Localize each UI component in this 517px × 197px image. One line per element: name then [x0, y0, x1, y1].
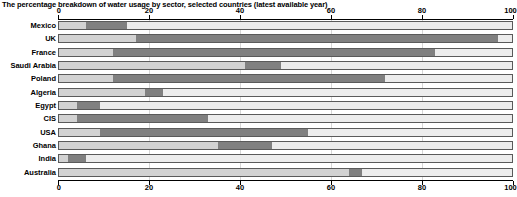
bar-segment [59, 169, 349, 176]
bar-row [58, 87, 513, 100]
stacked-bar[interactable] [58, 61, 513, 70]
bar-segment [113, 49, 435, 56]
category-label: India [2, 154, 56, 163]
bar-segment [100, 102, 512, 109]
bar-row [58, 73, 513, 86]
bar-segment [100, 129, 308, 136]
bar-row [58, 140, 513, 153]
bar-segment [59, 49, 113, 56]
x-axis-tick-label: 80 [418, 6, 426, 15]
bar-segment [435, 49, 512, 56]
stacked-bar[interactable] [58, 21, 513, 30]
category-label: Egypt [2, 101, 56, 110]
bar-segment [145, 89, 163, 96]
bar-segment [308, 129, 512, 136]
x-axis-tick-label: 20 [145, 6, 153, 15]
x-axis-top: 020406080100 [58, 9, 513, 20]
category-label: USA [2, 128, 56, 137]
x-axis-tick-label: 0 [57, 6, 61, 15]
bar-segment [77, 115, 208, 122]
bar-segment [208, 115, 512, 122]
x-axis-tick-label: 20 [145, 183, 153, 192]
bar-row [58, 127, 513, 140]
stacked-bar[interactable] [58, 74, 513, 83]
category-label: CIS [2, 114, 56, 123]
stacked-bar[interactable] [58, 154, 513, 163]
category-axis: MexicoUKFranceSaudi ArabiaPolandAlgeriaE… [0, 20, 56, 180]
chart-title: The percentage breakdown of water usage … [2, 0, 327, 9]
stacked-bar[interactable] [58, 168, 513, 177]
bar-segment [127, 22, 512, 29]
bar-segment [281, 62, 512, 69]
x-axis-bottom: 020406080100 [58, 180, 513, 191]
bar-segment [498, 35, 512, 42]
x-axis-tick-label: 100 [504, 6, 517, 15]
bar-segment [59, 75, 113, 82]
bar-segment [59, 62, 245, 69]
category-label: Australia [2, 168, 56, 177]
bar-segment [59, 129, 100, 136]
category-label: France [2, 48, 56, 57]
bar-segment [59, 115, 77, 122]
bar-segment [59, 35, 136, 42]
x-axis-tick-label: 40 [236, 6, 244, 15]
stacked-bar[interactable] [58, 48, 513, 57]
bar-segment [86, 22, 127, 29]
stacked-bar[interactable] [58, 114, 513, 123]
category-label: Mexico [2, 21, 56, 30]
bar-row [58, 113, 513, 126]
stacked-bar[interactable] [58, 141, 513, 150]
category-label: Poland [2, 74, 56, 83]
x-axis-tick [513, 15, 514, 19]
bar-segment [136, 35, 498, 42]
plot-area [58, 20, 513, 180]
x-axis-tick-label: 100 [504, 183, 517, 192]
x-axis-tick-label: 40 [236, 183, 244, 192]
bar-segment [349, 169, 363, 176]
bar-row [58, 60, 513, 73]
bar-segment [113, 75, 385, 82]
stacked-bar[interactable] [58, 34, 513, 43]
category-label: Ghana [2, 141, 56, 150]
stacked-bar[interactable] [58, 128, 513, 137]
bar-segment [245, 62, 281, 69]
x-axis-tick [422, 15, 423, 19]
bar-segment [77, 102, 100, 109]
category-label: Algeria [2, 88, 56, 97]
x-axis-tick [240, 15, 241, 19]
bar-row [58, 33, 513, 46]
x-axis-tick-label: 60 [327, 183, 335, 192]
stacked-bar[interactable] [58, 88, 513, 97]
bar-segment [59, 22, 86, 29]
bar-row [58, 47, 513, 60]
bar-segment [59, 155, 68, 162]
x-axis-tick [149, 15, 150, 19]
bar-segment [272, 142, 512, 149]
bar-row [58, 153, 513, 166]
x-axis-tick-label: 0 [57, 183, 61, 192]
bar-segment [385, 75, 512, 82]
x-axis-tick-label: 60 [327, 6, 335, 15]
bar-row [58, 100, 513, 113]
x-axis-tick [58, 15, 59, 19]
bar-row [58, 167, 513, 180]
bar-segment [86, 155, 512, 162]
bar-row [58, 20, 513, 33]
bar-segment [363, 169, 512, 176]
bar-segment [59, 142, 218, 149]
x-axis-tick-label: 80 [418, 183, 426, 192]
axis-line [58, 180, 513, 181]
category-label: UK [2, 34, 56, 43]
bar-segment [218, 142, 272, 149]
bar-segment [59, 89, 145, 96]
x-axis-tick [331, 15, 332, 19]
chart-container: The percentage breakdown of water usage … [0, 0, 517, 197]
bar-segment [59, 102, 77, 109]
bar-segment [163, 89, 512, 96]
category-label: Saudi Arabia [2, 61, 56, 70]
stacked-bar[interactable] [58, 101, 513, 110]
bar-segment [68, 155, 86, 162]
